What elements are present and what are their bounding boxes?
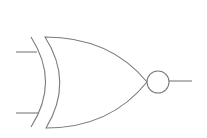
xnor-gate-symbol [0,0,207,138]
xnor-gate-diagram [0,0,207,138]
inversion-bubble [147,71,169,93]
gate-body [45,37,147,128]
